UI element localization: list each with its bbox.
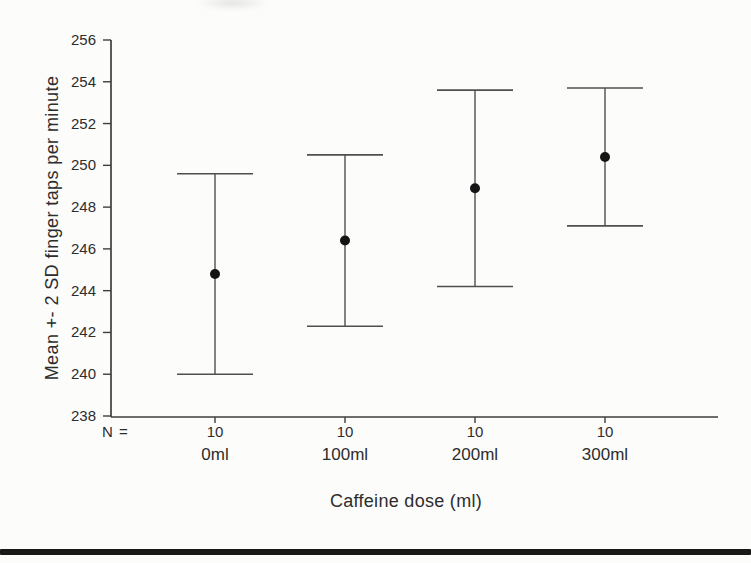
mean-marker-200ml [470, 183, 480, 193]
x-axis-title: Caffeine dose (ml) [111, 491, 701, 512]
y-tick-label: 242 [64, 324, 96, 340]
mean-marker-100ml [340, 236, 350, 246]
y-tick-label: 252 [64, 116, 96, 132]
y-tick-label: 256 [64, 32, 96, 48]
n-value: 10 [300, 424, 390, 440]
y-tick-label: 240 [64, 366, 96, 382]
scanned-page: Mean +- 2 SD finger taps per minute 256 … [0, 0, 751, 563]
mean-marker-300ml [600, 152, 610, 162]
n-value: 10 [170, 424, 260, 440]
y-tick-label: 244 [64, 283, 96, 299]
y-tick-label: 246 [64, 241, 96, 257]
y-axis-title: Mean +- 2 SD finger taps per minute [42, 76, 63, 381]
y-tick-label: 250 [64, 157, 96, 173]
category-label: 100ml [300, 446, 390, 464]
y-tick-label: 248 [64, 199, 96, 215]
n-value: 10 [430, 424, 520, 440]
y-tick-label: 254 [64, 74, 96, 90]
category-label: 200ml [430, 446, 520, 464]
category-label: 0ml [170, 446, 260, 464]
n-value: 10 [560, 424, 650, 440]
mean-marker-0ml [210, 269, 220, 279]
n-equals-label: N = [102, 424, 129, 440]
category-label: 300ml [560, 446, 650, 464]
error-bar-chart [0, 0, 751, 563]
page-bottom-rule [0, 549, 751, 555]
y-tick-label: 238 [64, 408, 96, 424]
